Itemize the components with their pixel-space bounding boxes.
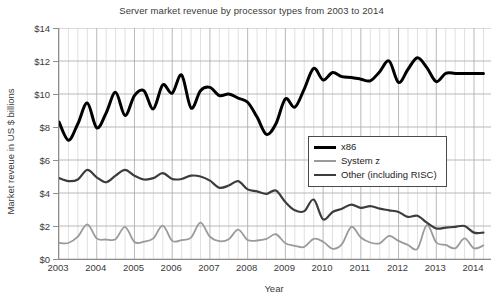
x-tick-label: 2012 (387, 262, 408, 273)
legend-item[interactable]: x86 (314, 140, 442, 154)
x-tick-label: 2011 (350, 262, 370, 273)
series-line (59, 58, 483, 141)
chart-container: Server market revenue by processor types… (0, 0, 503, 302)
legend-label: Other (including RISC) (341, 170, 437, 180)
legend-item[interactable]: System z (314, 154, 442, 168)
legend-label: System z (341, 156, 380, 166)
x-tick-label: 2009 (274, 262, 295, 273)
x-tick-label: 2007 (198, 262, 219, 273)
x-tick-label: 2006 (161, 262, 182, 273)
x-tick-label: 2005 (123, 262, 144, 273)
legend-line-icon (314, 174, 336, 176)
x-tick-label: 2008 (236, 262, 257, 273)
legend-item[interactable]: Other (including RISC) (314, 168, 442, 182)
series-line (59, 223, 483, 250)
chart-legend: x86System zOther (including RISC) (308, 136, 447, 187)
x-tick-label: 2010 (312, 262, 333, 273)
legend-label: x86 (341, 142, 356, 152)
legend-line-icon (314, 160, 336, 162)
x-tick-label: 2004 (85, 262, 106, 273)
x-tick-label: 2003 (47, 262, 68, 273)
x-tick-label: 2013 (425, 262, 446, 273)
x-axis-title: Year (58, 283, 490, 294)
legend-line-icon (314, 146, 336, 149)
x-tick-label: 2014 (462, 262, 483, 273)
